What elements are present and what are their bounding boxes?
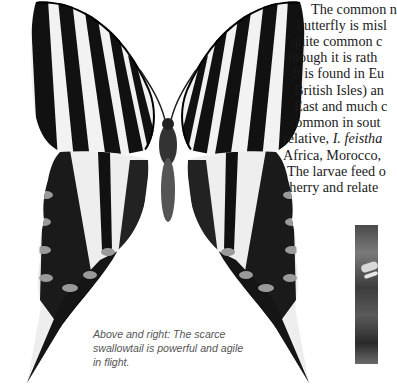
caption-line: swallowtail is powerful and agile (93, 341, 253, 355)
caption-line: in flight. (93, 355, 253, 369)
body-line: East and much c (294, 98, 387, 114)
caption-line: Above and right: The scarce (93, 327, 253, 341)
body-line: cherry and relate (283, 179, 378, 195)
body-line: butterfly is misl (297, 17, 387, 33)
body-line: quite common c (291, 33, 382, 49)
inset-butterfly-photo (355, 225, 378, 364)
body-line: It is found in Eu (292, 65, 384, 81)
body-line: The larvae feed o (287, 163, 386, 179)
species-name: I. feistha (333, 130, 383, 146)
body-line: though it is rath (288, 49, 377, 65)
body-line: common in sout (289, 114, 380, 130)
body-line: Africa, Morocco, (283, 147, 381, 163)
body-line: relative, I. feistha (283, 130, 382, 146)
figure-caption: Above and right: The scarce swallowtail … (93, 327, 253, 369)
body-line: The common n (311, 1, 397, 17)
body-line: British Isles) an (294, 82, 384, 98)
